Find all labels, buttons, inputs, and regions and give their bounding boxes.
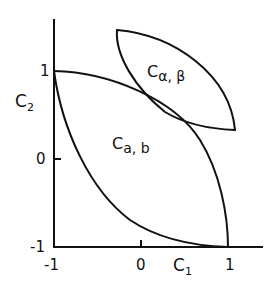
region-upper-label-sub: α, β <box>158 68 185 84</box>
region-lower-label-sub: a, b <box>123 140 149 156</box>
x-axis-title-sub: 1 <box>185 265 192 278</box>
x-axis-title-main: C <box>173 255 185 275</box>
diagram-figure: 1 0 -1 -1 0 1 C2 C1 Ca, b Cα, β <box>0 0 278 289</box>
y-tick-label-neg1: -1 <box>30 240 45 255</box>
region-lower-label-main: C <box>112 134 123 153</box>
y-tick-label-0: 0 <box>36 152 46 167</box>
region-lower-lower-arc <box>54 71 228 247</box>
y-axis-title: C2 <box>15 93 34 113</box>
y-tick-label-1: 1 <box>40 64 50 79</box>
x-axis-title: C1 <box>173 257 192 277</box>
x-tick-label-1: 1 <box>225 258 235 273</box>
region-upper-label: Cα, β <box>147 64 185 83</box>
y-axis-title-sub: 2 <box>27 101 34 114</box>
region-lower-upper-arc <box>54 71 228 247</box>
x-tick-label-0: 0 <box>136 258 146 273</box>
x-tick-label-neg1: -1 <box>44 258 59 273</box>
region-lower-label: Ca, b <box>112 136 150 155</box>
y-axis-title-main: C <box>15 91 27 111</box>
region-upper-label-main: C <box>147 62 158 81</box>
